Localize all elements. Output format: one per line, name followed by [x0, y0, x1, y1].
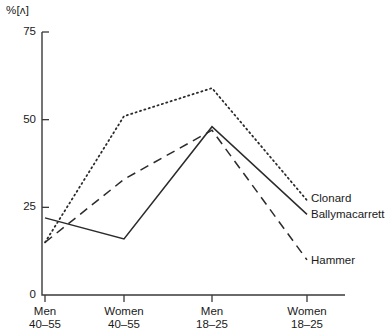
series-label-ballymacarrett: Ballymacarrett — [311, 208, 385, 220]
y-axis-ticks — [42, 32, 49, 207]
series-label-clonard: Clonard — [311, 192, 351, 204]
series-label-hammer: Hammer — [311, 254, 355, 266]
x-tick-label-men-40-55: Men 40–55 — [5, 305, 85, 331]
x-tick-label-line2: 40–55 — [84, 318, 164, 331]
x-tick-label-men-18-25: Men 18–25 — [172, 305, 252, 331]
series-line-ballymacarrett — [45, 127, 307, 239]
x-tick-label-line2: 40–55 — [5, 318, 85, 331]
chart-plot-area — [0, 0, 385, 331]
x-tick-label-line2: 18–25 — [172, 318, 252, 331]
x-axis-ticks — [45, 295, 307, 302]
x-tick-label-line1: Women — [267, 305, 347, 318]
chart-axes — [42, 32, 345, 295]
x-tick-label-line1: Men — [5, 305, 85, 318]
x-tick-label-women-40-55: Women 40–55 — [84, 305, 164, 331]
x-tick-label-line1: Women — [84, 305, 164, 318]
series-line-clonard — [45, 88, 307, 242]
line-chart-figure: %[ʌ] 75 50 25 0 Men 40–55 Women 40–55 Me… — [0, 0, 385, 331]
x-tick-label-line2: 18–25 — [267, 318, 347, 331]
x-tick-label-line1: Men — [172, 305, 252, 318]
x-tick-label-women-18-25: Women 18–25 — [267, 305, 347, 331]
series-line-hammer — [45, 130, 307, 260]
